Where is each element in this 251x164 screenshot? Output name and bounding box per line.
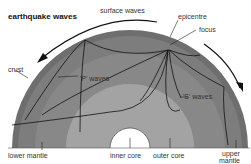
- s-waves-label: 'S' waves: [183, 93, 212, 100]
- p-waves-label: 'P' waves: [80, 75, 109, 82]
- surface-waves-label: surface waves: [100, 7, 145, 14]
- lower-mantle-label: lower mantle: [8, 152, 48, 159]
- crust-label: crust: [8, 66, 23, 73]
- focus-label: focus: [199, 26, 216, 33]
- epicentre-label: epicentre: [178, 13, 207, 20]
- outer-core-label: outer core: [153, 152, 185, 159]
- diagram-title: earthquake waves: [8, 12, 77, 21]
- upper-mantle-label-line1: upper: [222, 150, 240, 157]
- inner-core-label: inner core: [110, 152, 141, 159]
- earth-cross-section-diagram: [0, 0, 251, 164]
- upper-mantle-label-line2: mantle: [219, 157, 240, 164]
